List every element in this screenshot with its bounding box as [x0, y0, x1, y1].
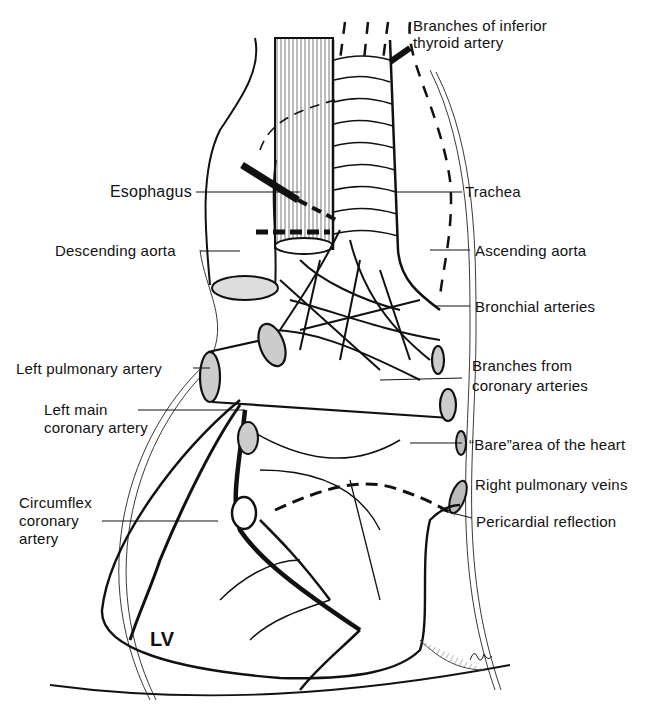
- coronary-arteries: [130, 405, 455, 690]
- label-inferior-thyroid-1: Branches of inferior: [413, 17, 547, 34]
- label-trachea: Trachea: [465, 183, 521, 200]
- descending-aorta: [206, 38, 278, 300]
- trachea: [333, 22, 451, 310]
- anatomy-illustration: [0, 0, 668, 705]
- label-left-main-1: Left main: [44, 401, 108, 418]
- label-pericardial-reflection: Pericardial reflection: [476, 513, 616, 530]
- label-inferior-thyroid-2: thyroid artery: [413, 34, 503, 51]
- label-circumflex-2: coronary: [19, 512, 79, 529]
- label-bronchial-arteries: Bronchial arteries: [475, 298, 595, 315]
- label-right-pulmonary-veins: Right pulmonary veins: [475, 476, 628, 493]
- artist-signature: [470, 653, 492, 660]
- heart-outline: [50, 400, 510, 695]
- label-ascending-aorta: Ascending aorta: [475, 242, 586, 259]
- label-bare-area: “Bare”area of the heart: [469, 436, 625, 453]
- label-left-ventricle: LV: [150, 628, 174, 651]
- label-circumflex-3: artery: [19, 530, 59, 547]
- label-esophagus: Esophagus: [110, 183, 192, 200]
- label-circumflex-1: Circumflex: [19, 494, 92, 511]
- label-branches-coronary-1: Branches from: [472, 357, 572, 374]
- label-branches-coronary-2: coronary arteries: [472, 377, 588, 394]
- label-left-main-2: coronary artery: [44, 419, 148, 436]
- right-pulmonary-veins: [446, 431, 471, 515]
- label-descending-aorta: Descending aorta: [55, 242, 176, 259]
- esophagus: [242, 38, 340, 254]
- label-left-pulmonary-artery: Left pulmonary artery: [16, 360, 162, 377]
